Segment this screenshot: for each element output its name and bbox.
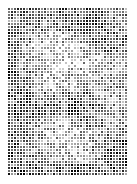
halftone-dot (26, 14, 28, 16)
halftone-dot (65, 140, 67, 142)
halftone-dot (119, 65, 121, 67)
halftone-dot (80, 134, 82, 136)
halftone-dot (68, 83, 70, 85)
halftone-dot (110, 158, 112, 160)
halftone-dot (122, 50, 124, 52)
halftone-dot (101, 56, 103, 58)
halftone-dot (47, 32, 49, 34)
halftone-dot (11, 119, 13, 121)
halftone-dot (74, 167, 76, 169)
halftone-dot (53, 29, 55, 31)
halftone-dot (62, 104, 64, 106)
halftone-dot (62, 71, 64, 73)
halftone-dot (122, 8, 124, 10)
halftone-dot (29, 47, 31, 49)
halftone-dot (98, 98, 100, 100)
halftone-dot (125, 41, 127, 43)
halftone-dot (8, 104, 10, 106)
halftone-dot (74, 77, 76, 79)
halftone-dot (89, 71, 91, 73)
halftone-dot (29, 50, 31, 52)
halftone-dot (110, 164, 112, 166)
halftone-dot (29, 80, 31, 82)
halftone-dot (101, 101, 103, 103)
halftone-dot (107, 26, 109, 28)
halftone-dot (50, 104, 52, 106)
halftone-dot (104, 89, 106, 91)
halftone-dot (38, 80, 40, 82)
halftone-dot (53, 89, 55, 91)
halftone-dot (35, 8, 37, 10)
halftone-dot (62, 86, 64, 88)
halftone-dot (110, 92, 112, 94)
halftone-dot (122, 134, 124, 136)
halftone-dot (44, 164, 46, 166)
halftone-dot (101, 125, 103, 127)
halftone-dot (53, 14, 55, 16)
halftone-dot (125, 101, 127, 103)
halftone-dot (32, 26, 34, 28)
halftone-dot (65, 122, 67, 124)
halftone-dot (89, 47, 91, 49)
halftone-dot (65, 131, 67, 133)
halftone-dot (95, 11, 97, 13)
halftone-dot (89, 8, 91, 10)
halftone-dot (56, 83, 58, 85)
halftone-dot (23, 158, 25, 160)
halftone-dot (107, 122, 109, 124)
halftone-dot (110, 86, 112, 88)
halftone-dot (110, 80, 112, 82)
halftone-dot (83, 137, 85, 139)
halftone-dot (17, 65, 19, 67)
halftone-dot (68, 14, 70, 16)
halftone-dot (20, 98, 22, 100)
halftone-dot (20, 164, 22, 166)
halftone-dot (62, 155, 64, 157)
halftone-dot (113, 65, 115, 67)
halftone-dot (8, 32, 10, 34)
halftone-dot (74, 11, 76, 13)
halftone-dot (11, 116, 13, 118)
halftone-dot (17, 149, 19, 151)
halftone-dot (32, 35, 34, 37)
halftone-dot (14, 104, 16, 106)
halftone-dot (86, 53, 88, 55)
halftone-dot (59, 98, 61, 100)
halftone-dot (44, 122, 46, 124)
halftone-dot (119, 128, 121, 130)
halftone-dot (17, 116, 19, 118)
halftone-dot (74, 107, 76, 109)
halftone-dot (44, 158, 46, 160)
halftone-dot (65, 104, 67, 106)
halftone-dot (17, 146, 19, 148)
halftone-dot (20, 119, 22, 121)
halftone-dot (119, 137, 121, 139)
halftone-dot (23, 104, 25, 106)
halftone-dot (68, 11, 70, 13)
halftone-dot (101, 74, 103, 76)
halftone-dot (92, 137, 94, 139)
halftone-dot (29, 68, 31, 70)
halftone-dot (74, 41, 76, 43)
halftone-dot (32, 80, 34, 82)
halftone-dot (86, 74, 88, 76)
halftone-dot (98, 80, 100, 82)
halftone-dot (17, 68, 19, 70)
halftone-dot (62, 158, 64, 160)
halftone-dot (62, 143, 64, 145)
halftone-dot (32, 83, 34, 85)
halftone-dot (68, 155, 70, 157)
halftone-dot (56, 134, 58, 136)
halftone-dot (104, 86, 106, 88)
halftone-dot (47, 140, 49, 142)
halftone-dot (104, 170, 106, 172)
halftone-dot (86, 68, 88, 70)
halftone-dot (17, 62, 19, 64)
halftone-dot (98, 8, 100, 10)
halftone-dot (77, 77, 79, 79)
halftone-dot (92, 152, 94, 154)
halftone-dot (74, 155, 76, 157)
halftone-dot (71, 173, 73, 175)
halftone-dot (47, 152, 49, 154)
halftone-dot (20, 104, 22, 106)
